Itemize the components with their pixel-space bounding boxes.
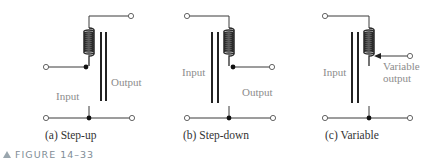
top-wire [189,16,229,28]
terminal-bottom-right [407,115,412,120]
variable-output-label-line2: output [383,72,411,84]
winding-coil-icon [224,28,235,66]
winding-coil-icon [84,28,95,66]
figure-number: FIGURE 14–33 [15,149,94,160]
terminal-input-top [322,13,327,18]
terminal-bottom-left [43,115,48,120]
junction-dot [87,116,92,121]
autotransformer-diagram: Output Input (a) Step-up Input Output (b… [0,0,430,164]
caption-step-down: (b) Step-down [183,129,249,142]
terminal-bottom-right [129,115,134,120]
triangle-icon [3,151,11,158]
terminal-bottom-left [184,115,189,120]
top-wire [327,16,369,28]
input-label: Input [323,66,346,78]
junction-dot [227,116,232,121]
caption-variable: (c) Variable [325,129,379,142]
terminal-input [43,64,48,69]
output-label: Output [111,76,142,88]
winding-coil-icon [364,28,375,66]
top-wire [89,16,130,28]
terminal-output [269,64,274,69]
junction-dot [367,116,372,121]
terminal-bottom-left [322,115,327,120]
output-label: Output [242,86,273,98]
input-label: Input [182,66,205,78]
caption-step-up: (a) Step-up [45,129,97,142]
variable-output-label-line1: Variable [383,60,420,72]
arrow-left-icon [374,53,381,59]
terminal-variable-output [407,53,412,58]
terminal-output-top [128,13,133,18]
terminal-bottom-right [270,115,275,120]
input-label: Input [56,90,79,102]
panel-step-up: Output Input (a) Step-up [43,13,141,142]
tap-dot [231,65,236,70]
panel-variable: Input Variable output (c) Variable [322,13,419,142]
panel-step-down: Input Output (b) Step-down [182,13,276,142]
figure-label: FIGURE 14–33 [3,149,94,160]
tap-dot [84,65,89,70]
terminal-input-top [184,13,189,18]
